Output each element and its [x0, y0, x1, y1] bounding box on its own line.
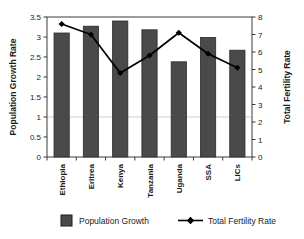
left-axis-ticks: 00.511.522.533.5: [30, 13, 47, 162]
legend-label-total-fertility-rate: Total Fertility Rate: [208, 216, 276, 226]
left-axis-title: Population Growth Rate: [8, 38, 18, 135]
category-label-eritrea: Eritrea: [87, 163, 96, 189]
right-tick-label: 5: [258, 66, 263, 75]
right-tick-label: 8: [258, 13, 263, 22]
category-label-lics: LICs: [233, 163, 242, 181]
bar-kenya: [113, 21, 128, 157]
left-tick-label: 0: [37, 153, 42, 162]
category-label-tanzania: Tanzania: [146, 163, 155, 197]
right-tick-label: 0: [258, 153, 263, 162]
right-tick-label: 4: [258, 83, 263, 92]
bar-tanzania: [142, 30, 157, 157]
left-tick-label: 3: [37, 33, 42, 42]
bar-uganda: [171, 62, 186, 157]
chart-container: 00.511.522.533.5 012345678 EthiopiaEritr…: [0, 0, 304, 239]
right-tick-label: 6: [258, 48, 263, 57]
left-tick-label: 0.5: [30, 133, 42, 142]
left-tick-label: 3.5: [30, 13, 42, 22]
left-tick-label: 1.5: [30, 93, 42, 102]
combo-chart: 00.511.522.533.5 012345678 EthiopiaEritr…: [0, 0, 304, 239]
right-tick-label: 7: [258, 31, 263, 40]
category-label-kenya: Kenya: [116, 163, 125, 188]
left-tick-label: 1: [37, 113, 42, 122]
left-tick-label: 2.5: [30, 53, 42, 62]
category-label-ethiopia: Ethiopia: [58, 163, 67, 195]
legend-marker-diamond-icon: [187, 217, 194, 224]
right-tick-label: 2: [258, 118, 263, 127]
chart-legend: Population Growth Total Fertility Rate: [61, 215, 276, 226]
category-label-ssa: SSA: [204, 164, 213, 181]
legend-label-population-growth: Population Growth: [79, 216, 149, 226]
right-axis-ticks: 012345678: [252, 13, 263, 162]
right-tick-label: 1: [258, 136, 263, 145]
bar-eritrea: [83, 26, 98, 157]
left-tick-label: 2: [37, 73, 42, 82]
bar-ethiopia: [54, 33, 69, 157]
right-tick-label: 3: [258, 101, 263, 110]
legend-swatch-population-growth: [61, 215, 72, 226]
right-axis-title: Total Fertility Rate: [282, 50, 292, 124]
category-axis-labels: EthiopiaEritreaKenyaTanzaniaUgandaSSALIC…: [47, 157, 252, 198]
category-label-uganda: Uganda: [175, 163, 184, 193]
